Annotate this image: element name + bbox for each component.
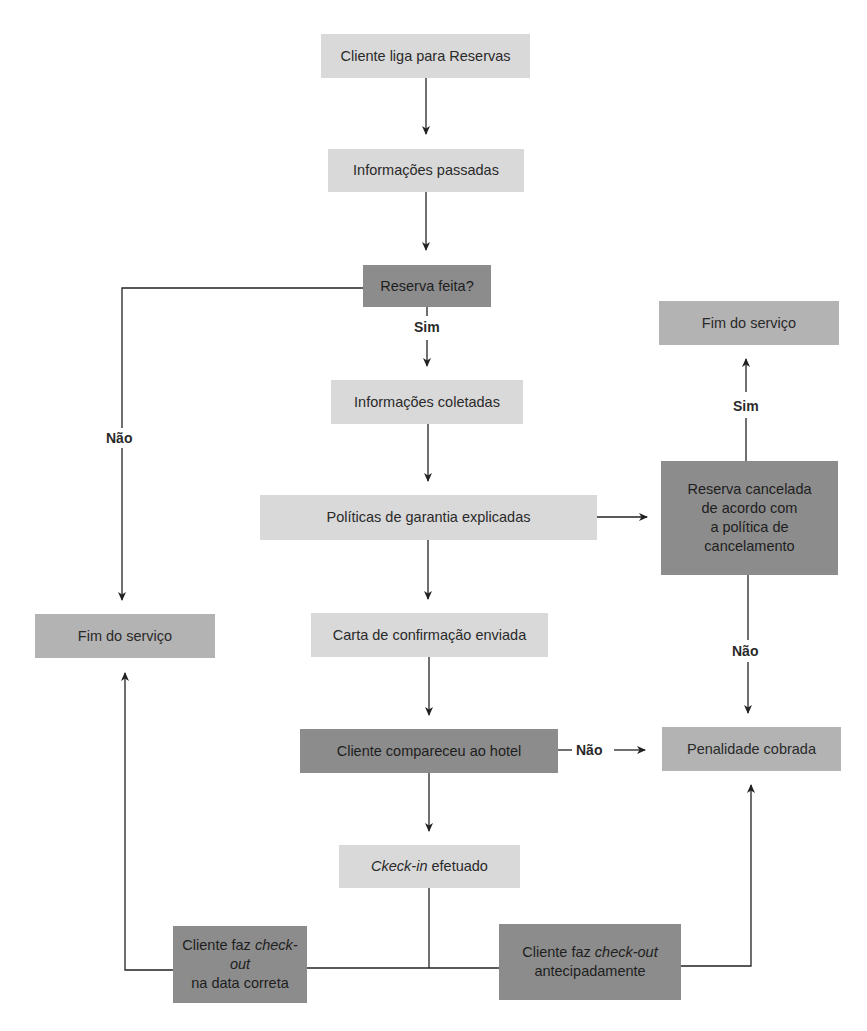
node-text: Políticas de garantia explicadas [327, 508, 531, 527]
node-penalidade-cobrada: Penalidade cobrada [662, 727, 841, 771]
node-cliente-liga: Cliente liga para Reservas [321, 34, 530, 78]
node-text: Cliente liga para Reservas [340, 47, 510, 66]
edge-label-sim-cancelada: Sim [731, 398, 761, 414]
node-text-line3: a política de [710, 518, 788, 537]
edge-checkout-correta-to-fim-left [125, 673, 173, 970]
node-text: Ckeck-in efetuado [371, 857, 488, 876]
node-politicas-garantia: Políticas de garantia explicadas [260, 495, 597, 540]
node-text: Fim do serviço [702, 314, 796, 333]
node-text: Reserva feita? [380, 277, 474, 296]
node-text-line2: antecipadamente [534, 962, 645, 981]
node-informacoes-passadas: Informações passadas [328, 149, 524, 192]
node-checkout-data-correta: Cliente faz check-out na data correta [173, 926, 307, 1003]
node-text: Informações passadas [353, 161, 499, 180]
node-reserva-cancelada-decision: Reserva cancelada de acordo com a políti… [661, 461, 838, 575]
node-fim-servico-right: Fim do serviço [659, 301, 839, 345]
node-text: Carta de confirmação enviada [333, 626, 526, 645]
edge-label-nao-reserva: Não [104, 430, 134, 446]
edge-checkout-antecipado-to-penalidade [681, 785, 751, 966]
node-text-line1: Cliente faz check-out [173, 936, 307, 974]
node-text: Cliente compareceu ao hotel [337, 742, 522, 761]
node-text-line2: na data correta [191, 974, 289, 993]
node-cliente-compareceu-decision: Cliente compareceu ao hotel [300, 729, 558, 773]
node-informacoes-coletadas: Informações coletadas [331, 380, 523, 424]
node-text: Fim do serviço [78, 627, 172, 646]
node-reserva-feita-decision: Reserva feita? [363, 265, 491, 307]
node-carta-confirmacao: Carta de confirmação enviada [311, 613, 548, 657]
node-text-line1: Cliente faz check-out [522, 943, 657, 962]
node-fim-servico-left: Fim do serviço [35, 614, 215, 658]
edge-label-nao-cancelada: Não [730, 643, 760, 659]
node-text-line1: Reserva cancelada [687, 480, 811, 499]
edge-label-sim-reserva: Sim [412, 319, 442, 335]
node-text: Informações coletadas [354, 393, 500, 412]
node-text-line4: cancelamento [704, 537, 794, 556]
node-text: Penalidade cobrada [687, 740, 816, 759]
edge-label-nao-compareceu: Não [574, 742, 604, 758]
node-checkin-efetuado: Ckeck-in efetuado [339, 845, 520, 888]
node-text-line2: de acordo com [702, 499, 798, 518]
node-checkout-antecipado: Cliente faz check-out antecipadamente [499, 924, 681, 1000]
